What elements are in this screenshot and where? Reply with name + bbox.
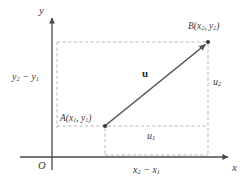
- point-a-dot: [103, 124, 107, 128]
- point-b-label-mid: , y: [204, 21, 213, 31]
- construction-lines: [57, 42, 208, 155]
- delta-y-label: y2 − y1: [12, 72, 39, 83]
- delta-y-sub2: 1: [36, 75, 39, 82]
- y-axis-label: y: [39, 5, 44, 16]
- delta-x-sub2: 1: [157, 168, 160, 175]
- point-a-label-mid: , y: [76, 113, 85, 123]
- vector-u-arrow: [106, 45, 206, 126]
- axes: [20, 18, 228, 170]
- point-b-label-main: B(x: [188, 21, 201, 31]
- vector-diagram: y x O B(x2, y2) A(x1, y1) u u1 u2 y2 − y…: [0, 0, 247, 190]
- x-axis-label: x: [232, 162, 237, 173]
- delta-x-op: −: [141, 164, 153, 175]
- component-u2-label: u2: [213, 77, 221, 88]
- component-u1-sub: 1: [152, 134, 155, 141]
- component-u1-label: u1: [147, 131, 155, 142]
- point-b-dot: [206, 40, 210, 44]
- delta-x-label: x2 − x1: [133, 165, 160, 176]
- point-a-label-main: A(x: [60, 113, 73, 123]
- delta-y-op: −: [20, 71, 32, 82]
- point-a-label: A(x1, y1): [60, 114, 91, 124]
- origin-label: O: [38, 161, 46, 172]
- vector-u-label: u: [142, 68, 148, 79]
- point-b-label: B(x2, y2): [188, 22, 219, 32]
- component-u2-sub: 2: [218, 80, 221, 87]
- point-b-label-end: ): [216, 21, 219, 31]
- point-a-label-end: ): [88, 113, 91, 123]
